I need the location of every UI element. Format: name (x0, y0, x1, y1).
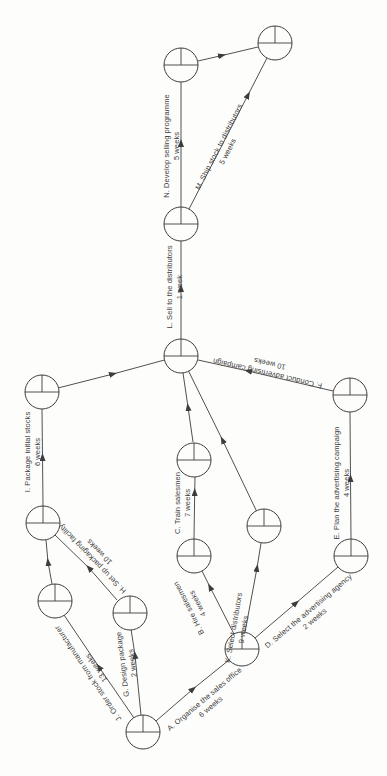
event-node-after-E (333, 378, 367, 412)
activity-I-label: I. Package initial stocks6 weeks (23, 412, 42, 493)
event-node-after-G (113, 596, 147, 630)
edge-dummy-salesmen-merge (183, 373, 193, 442)
event-node-start (126, 715, 160, 749)
event-node-merge-before-L (164, 339, 198, 373)
event-node-after-I (25, 375, 59, 409)
activity-E-label: E. Plan the advertising campaign4 weeks (332, 427, 351, 540)
activity-M-label: M. Ship stock to distributors5 weeks (193, 102, 253, 195)
activity-G-label: G. Design package2 weeks (114, 630, 141, 697)
edge-dummy-package-merge (58, 360, 165, 388)
edge-activity-I (42, 409, 43, 506)
labels-layer: A. Organise the sales office6 weeks B. H… (23, 94, 360, 740)
activity-D-label: D. Select the advertising agency2 weeks (263, 572, 360, 658)
event-node-after-B (177, 539, 211, 573)
activity-H-label: H. Set up packaging facility10 weeks (56, 515, 135, 595)
event-node-end (258, 26, 292, 60)
activity-F-label: F. Conduct advertising campaign10 weeks (212, 347, 325, 391)
scanned-figure-page: A. Organise the sales office6 weeks B. H… (0, 0, 387, 776)
event-node-after-D (334, 539, 368, 573)
event-node-after-K (247, 509, 281, 543)
edge-dummy-distributors-merge (189, 371, 257, 511)
activity-C-label: C. Train salesmen7 weeks (173, 472, 192, 534)
event-node-after-C (177, 443, 211, 477)
event-node-after-J (38, 584, 72, 618)
activity-A-label: A. Organise the sales office6 weeks (165, 665, 250, 740)
edge-dummy-stock-join (46, 540, 52, 584)
edge-activity-C (194, 477, 195, 539)
event-node-after-L (164, 207, 198, 241)
activity-network-diagram: A. Organise the sales office6 weeks B. H… (0, 0, 387, 776)
event-node-after-N (164, 48, 198, 82)
edge-dummy-end-join (198, 47, 258, 61)
activity-N-label: N. Develop selling programme5 weeks (162, 94, 181, 198)
event-node-after-H (26, 506, 60, 540)
